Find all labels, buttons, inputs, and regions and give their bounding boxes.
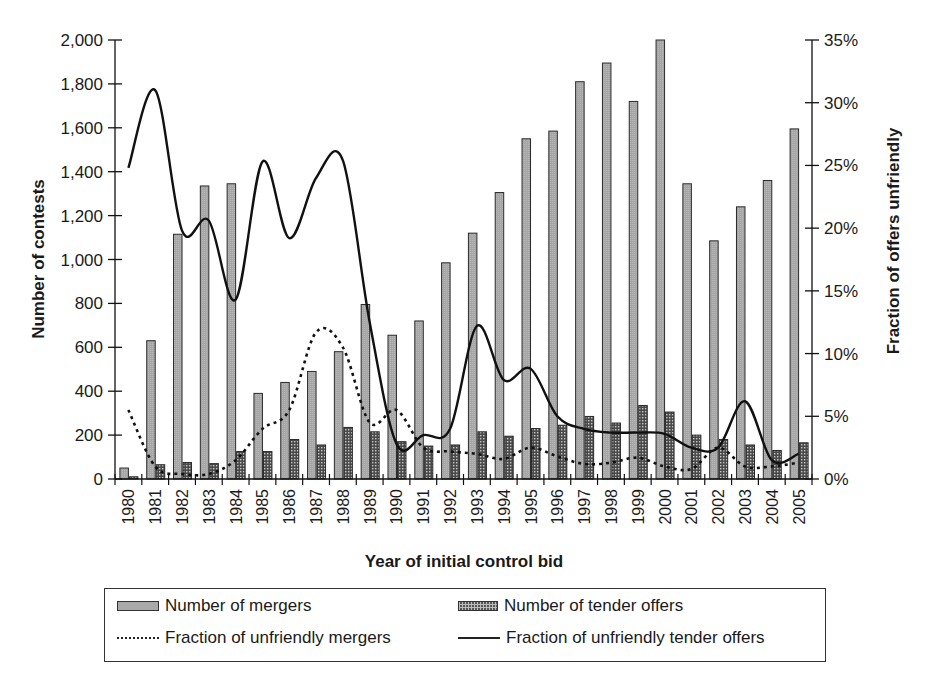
y2-tick-label: 5%: [824, 407, 849, 426]
tender-offer-bar: [612, 423, 621, 479]
merger-bar: [629, 101, 638, 479]
tender-offer-bar: [746, 445, 755, 479]
x-tick-label: 1992: [442, 489, 459, 525]
y2-tick-label: 25%: [824, 156, 858, 175]
x-tick-label: 1999: [630, 489, 647, 525]
y-tick-label: 2,000: [60, 31, 103, 50]
tender-bar-swatch-icon: [458, 601, 498, 611]
x-axis-title: Year of initial control bid: [365, 552, 563, 571]
merger-bar: [120, 468, 128, 479]
x-tick-label: 1988: [335, 489, 352, 525]
x-tick-label: 1997: [576, 489, 593, 525]
x-tick-label: 1996: [549, 489, 566, 525]
x-tick-label: 1986: [281, 489, 298, 525]
legend-label: Fraction of unfriendly mergers: [165, 628, 391, 648]
x-tick-label: 1983: [201, 489, 218, 525]
merger-bar: [388, 335, 397, 479]
tender-offer-bar: [290, 439, 299, 479]
y-tick-label: 400: [75, 382, 103, 401]
legend-label: Number of mergers: [165, 596, 311, 616]
x-tick-label: 2005: [791, 489, 808, 525]
tender-offer-bar: [263, 452, 272, 479]
tender-offer-bar: [800, 443, 809, 479]
merger-bar: [549, 131, 558, 479]
tender-offer-bar: [639, 405, 648, 479]
merger-bar: [522, 139, 531, 479]
chart-canvas: 02004006008001,0001,2001,4001,6001,8002,…: [0, 0, 927, 580]
merger-bar: [790, 129, 799, 479]
merger-bar: [227, 184, 236, 479]
x-tick-label: 1994: [496, 489, 513, 525]
y2-tick-label: 35%: [824, 31, 858, 50]
x-tick-label: 1995: [523, 489, 540, 525]
legend-item-mergers: Number of mergers: [117, 596, 311, 616]
tender-offer-bar: [371, 432, 380, 479]
x-tick-label: 2001: [683, 489, 700, 525]
x-tick-label: 1985: [254, 489, 271, 525]
y-tick-label: 800: [75, 294, 103, 313]
merger-bar: [468, 233, 477, 479]
tender-offer-bar: [317, 445, 326, 479]
merger-bar: [656, 40, 665, 479]
x-tick-label: 1987: [308, 489, 325, 525]
merger-bar-swatch-icon: [117, 601, 159, 611]
x-tick-label: 2004: [764, 489, 781, 525]
merger-bar: [334, 352, 343, 479]
x-tick-label: 1991: [415, 489, 432, 525]
y-tick-label: 1,200: [60, 207, 103, 226]
tender-offer-bar: [585, 416, 594, 479]
y2-tick-label: 20%: [824, 219, 858, 238]
x-tick-label: 2002: [710, 489, 727, 525]
x-tick-label: 1998: [603, 489, 620, 525]
x-tick-label: 2003: [737, 489, 754, 525]
merger-bar: [602, 63, 611, 479]
tender-offer-bar: [666, 412, 675, 479]
x-tick-label: 1984: [228, 489, 245, 525]
y-tick-label: 600: [75, 338, 103, 357]
tender-offer-bar: [451, 445, 460, 479]
legend-label: Fraction of unfriendly tender offers: [506, 628, 765, 648]
x-tick-label: 1981: [147, 489, 164, 525]
x-tick-label: 1980: [120, 489, 137, 525]
dashed-line-swatch-icon: [117, 637, 159, 639]
y-axis-title: Number of contests: [29, 179, 48, 339]
tender-offer-bar: [558, 425, 567, 479]
y2-axis-title: Fraction of offers unfriendly: [884, 127, 903, 354]
legend-item-unfriendly-mergers: Fraction of unfriendly mergers: [117, 628, 391, 648]
tender-offer-bar: [692, 435, 701, 479]
solid-line-swatch-icon: [458, 637, 500, 639]
y-tick-label: 1,400: [60, 163, 103, 182]
merger-bar: [308, 371, 317, 479]
merger-bar: [683, 184, 692, 479]
merger-bar: [254, 393, 263, 479]
legend: Number of mergers Number of tender offer…: [104, 588, 826, 662]
merger-bar: [442, 263, 451, 479]
x-tick-label: 1993: [469, 489, 486, 525]
tender-offer-bar: [344, 427, 353, 479]
merger-bar: [495, 193, 504, 479]
x-tick-label: 1989: [362, 489, 379, 525]
x-tick-label: 1990: [388, 489, 405, 525]
merger-bar: [710, 241, 719, 479]
y2-tick-label: 10%: [824, 345, 858, 364]
merger-bar: [147, 341, 156, 479]
tender-offer-bar: [183, 463, 192, 479]
legend-label: Number of tender offers: [504, 596, 683, 616]
x-tick-label: 1982: [174, 489, 191, 525]
merger-bar: [415, 321, 424, 479]
y2-tick-label: 30%: [824, 94, 858, 113]
y-tick-label: 0: [94, 470, 103, 489]
tender-offer-bar: [532, 429, 541, 479]
y2-tick-label: 15%: [824, 282, 858, 301]
y2-tick-label: 0%: [824, 470, 849, 489]
legend-item-tender-offers: Number of tender offers: [458, 596, 683, 616]
merger-bar: [736, 207, 745, 479]
merger-bar: [200, 186, 209, 479]
x-tick-label: 2000: [657, 489, 674, 525]
y-tick-label: 200: [75, 426, 103, 445]
merger-bar: [763, 180, 772, 479]
y-tick-label: 1,600: [60, 119, 103, 138]
merger-bar: [174, 234, 183, 479]
y-tick-label: 1,000: [60, 251, 103, 270]
y-tick-label: 1,800: [60, 75, 103, 94]
